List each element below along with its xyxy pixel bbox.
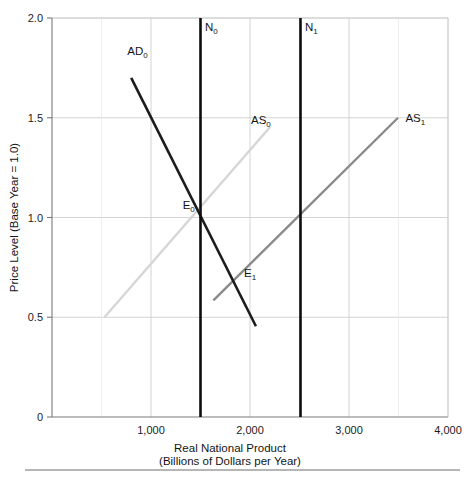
tick-labels-group: 1,0002,0003,0004,00000.51.01.52.0	[28, 12, 462, 436]
figure-container: AD0AS0AS1N0N1 1,0002,0003,0004,00000.51.…	[0, 0, 476, 480]
curve-label-n0: N0	[205, 21, 218, 36]
x-axis-title: Real National Product	[174, 442, 287, 454]
y-tick-label: 2.0	[28, 12, 43, 24]
curve-as1	[213, 118, 398, 301]
y-tick-label: 1.0	[28, 212, 43, 224]
labels-group: AD0AS0AS1N0N1	[127, 21, 426, 129]
x-tick-label: 2,000	[236, 424, 264, 436]
curve-as0	[104, 127, 270, 318]
curve-label-as0: AS0	[251, 114, 271, 129]
curve-label-ad0: AD0	[127, 45, 148, 60]
x-tick-label: 4,000	[434, 424, 462, 436]
annotations-group: E0E1	[183, 199, 257, 283]
y-axis-title: Price Level (Base Year = 1.0)	[8, 143, 20, 292]
gridlines-group	[52, 18, 448, 417]
y-tick-label: 0	[37, 411, 43, 423]
curve-label-n1: N1	[305, 21, 318, 36]
x-axis-subtitle: (Billions of Dollars per Year)	[159, 455, 301, 467]
x-tick-label: 1,000	[137, 424, 165, 436]
y-tick-label: 1.5	[28, 112, 43, 124]
ad-as-chart: AD0AS0AS1N0N1 1,0002,0003,0004,00000.51.…	[0, 0, 476, 480]
curve-label-as1: AS1	[405, 112, 425, 127]
y-tick-label: 0.5	[28, 311, 43, 323]
x-tick-label: 3,000	[335, 424, 363, 436]
curve-ad0	[131, 78, 256, 326]
